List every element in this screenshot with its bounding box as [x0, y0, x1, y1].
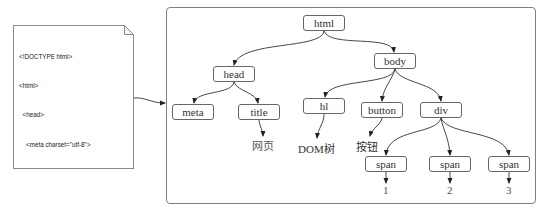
node-meta: meta	[172, 104, 214, 120]
node-body: body	[374, 53, 416, 69]
node-div: div	[420, 102, 462, 118]
node-h1: hl	[303, 98, 345, 114]
text-span-2-content: 2	[447, 184, 453, 196]
node-span-3: span	[488, 156, 530, 172]
text-span-1-content: 1	[383, 184, 389, 196]
node-html: html	[303, 15, 345, 31]
text-h1-content: DOM树	[298, 140, 335, 156]
text-title-content: 网页	[252, 137, 274, 153]
text-button-content: 按钮	[356, 138, 378, 154]
node-button: button	[361, 102, 403, 118]
node-title: title	[238, 104, 280, 120]
node-head: head	[213, 66, 255, 82]
node-span-1: span	[365, 156, 407, 172]
text-span-3-content: 3	[506, 184, 512, 196]
node-span-2: span	[429, 156, 471, 172]
